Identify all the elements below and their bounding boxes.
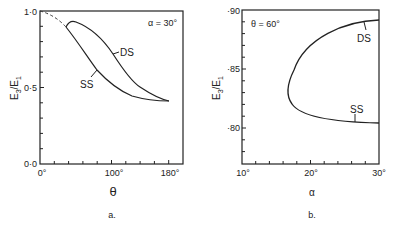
plot-b-xticks bbox=[256, 160, 366, 164]
plot-a-ylabel: E3/E1 bbox=[9, 76, 22, 100]
plot-b-ylabel: E3/E1 bbox=[211, 76, 224, 100]
plot-a-frame bbox=[40, 11, 183, 164]
panel-b: DS SS θ = 60° ·90 ·85 ·80 10° 20° 30° α … bbox=[211, 6, 386, 220]
plot-a-xtick-right: 180° bbox=[161, 168, 180, 178]
plot-a-xtick-left: 0° bbox=[38, 168, 47, 178]
plot-b-ytick-mid: ·85 bbox=[227, 64, 240, 74]
plot-a-xtick-mid: 100° bbox=[105, 168, 124, 178]
plot-a-ytick-top: 1·0 bbox=[24, 7, 37, 17]
plot-a-caption: a. bbox=[108, 210, 116, 220]
plot-a-annotation: α = 30° bbox=[148, 18, 177, 28]
plot-b-ytick-bottom: ·80 bbox=[227, 123, 240, 133]
plot-b-ss-label: SS bbox=[350, 104, 364, 115]
plot-a-xlabel: θ bbox=[109, 184, 116, 199]
plot-a-dashed-curve bbox=[40, 11, 66, 27]
plot-b-ds-label: DS bbox=[357, 33, 371, 44]
plot-b-annotation: θ = 60° bbox=[251, 19, 280, 29]
plot-b-ds-leader bbox=[364, 22, 366, 30]
plot-b-ytick-top: ·90 bbox=[227, 6, 240, 16]
plot-b-yticks bbox=[242, 22, 246, 152]
plot-a-ss-leader bbox=[91, 70, 97, 77]
plot-b-xtick-left: 10° bbox=[236, 168, 250, 178]
plot-b-xtick-mid: 20° bbox=[304, 168, 318, 178]
plot-a-ytick-mid: 0·5 bbox=[24, 83, 37, 93]
plot-b-caption: b. bbox=[308, 210, 316, 220]
plot-a-xticks bbox=[54, 160, 168, 164]
plot-a-ss-label: SS bbox=[80, 79, 94, 90]
figure: DS SS α = 30° 1·0 0·5 0·0 0° 100° 180° θ… bbox=[0, 0, 395, 225]
plot-b-xtick-right: 30° bbox=[372, 168, 386, 178]
plot-a-ds-leader bbox=[113, 52, 119, 54]
plot-a-ds-label: DS bbox=[120, 47, 134, 58]
plot-b-xlabel: α bbox=[309, 187, 315, 198]
plot-a-ytick-bottom: 0·0 bbox=[24, 159, 37, 169]
panel-a: DS SS α = 30° 1·0 0·5 0·0 0° 100° 180° θ… bbox=[9, 7, 183, 220]
